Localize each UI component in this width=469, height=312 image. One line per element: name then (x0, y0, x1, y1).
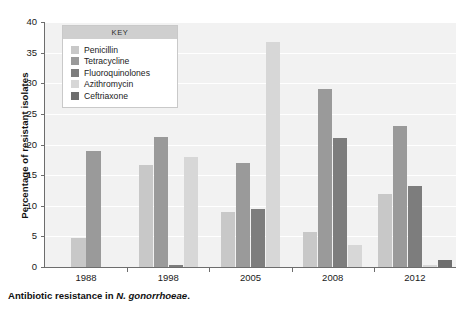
x-tick-label-2005: 2005 (240, 272, 261, 283)
legend-swatch-icon (71, 80, 79, 88)
y-tick-mark (41, 145, 45, 146)
bar-fluoroquinolones-1998 (169, 265, 184, 267)
bar-penicillin-2012 (378, 194, 393, 268)
x-axis-line (44, 267, 456, 268)
legend-label: Tetracycline (84, 56, 129, 66)
legend-items: PenicillinTetracyclineFluoroquinolonesAz… (63, 39, 177, 107)
y-tick-label: 15 (0, 169, 37, 180)
gridline (45, 22, 456, 23)
bar-tetracycline-2005 (236, 163, 251, 267)
gridline (45, 114, 456, 115)
legend-item-fluoroquinolones: Fluoroquinolones (71, 68, 177, 78)
legend-item-penicillin: Penicillin (71, 45, 177, 55)
legend-item-ceftriaxone: Ceftriaxone (71, 91, 177, 101)
y-tick-label: 30 (0, 77, 37, 88)
x-group-separator (374, 267, 375, 272)
legend-swatch-icon (71, 69, 79, 77)
bar-penicillin-2008 (303, 232, 318, 267)
bar-tetracycline-2008 (318, 89, 333, 267)
x-group-separator (292, 267, 293, 272)
x-group-separator (127, 267, 128, 272)
caption-species: N. gonorrhoeae (116, 290, 187, 301)
y-tick-mark (41, 236, 45, 237)
y-tick-label: 35 (0, 47, 37, 58)
legend-label: Penicillin (84, 45, 118, 55)
bar-fluoroquinolones-2005 (251, 209, 266, 267)
legend-label: Azithromycin (84, 79, 133, 89)
legend-item-tetracycline: Tetracycline (71, 56, 177, 66)
bar-penicillin-1998 (139, 165, 154, 267)
y-tick-mark (41, 53, 45, 54)
bar-fluoroquinolones-2012 (408, 186, 423, 267)
y-tick-label: 20 (0, 139, 37, 150)
x-tick-label-1998: 1998 (158, 272, 179, 283)
y-tick-mark (41, 83, 45, 84)
y-tick-mark (41, 206, 45, 207)
x-group-separator (209, 267, 210, 272)
y-tick-mark (41, 114, 45, 115)
y-tick-mark (41, 175, 45, 176)
caption-suffix: . (187, 290, 190, 301)
chart-figure: Percentage of resistant isolates 0510152… (0, 0, 469, 312)
y-tick-mark (41, 267, 45, 268)
bar-penicillin-1988 (71, 238, 86, 267)
legend-label: Ceftriaxone (84, 91, 128, 101)
y-tick-label: 40 (0, 16, 37, 27)
y-tick-mark (41, 22, 45, 23)
x-tick-label-2008: 2008 (322, 272, 343, 283)
bar-azithromycin-2012 (423, 265, 438, 267)
legend-swatch-icon (71, 46, 79, 54)
figure-caption: Antibiotic resistance in N. gonorrhoeae. (8, 290, 190, 301)
caption-prefix: Antibiotic resistance in (8, 290, 116, 301)
x-tick-label-1988: 1988 (76, 272, 97, 283)
legend-item-azithromycin: Azithromycin (71, 79, 177, 89)
y-tick-label: 0 (0, 261, 37, 272)
y-tick-label: 5 (0, 230, 37, 241)
x-tick-label-2012: 2012 (404, 272, 425, 283)
chart-legend: KEY PenicillinTetracyclineFluoroquinolon… (62, 25, 178, 108)
y-tick-label: 25 (0, 108, 37, 119)
bar-penicillin-2005 (221, 212, 236, 267)
legend-title: KEY (63, 26, 177, 39)
legend-label: Fluoroquinolones (84, 68, 150, 78)
bar-azithromycin-2008 (348, 245, 363, 267)
legend-swatch-icon (71, 57, 79, 65)
bar-azithromycin-1998 (184, 157, 199, 267)
bar-ceftriaxone-2012 (438, 260, 453, 267)
bar-tetracycline-2012 (393, 126, 408, 267)
y-tick-label: 10 (0, 200, 37, 211)
bar-tetracycline-1988 (86, 151, 101, 267)
bar-azithromycin-2005 (266, 42, 281, 267)
bar-tetracycline-1998 (154, 137, 169, 267)
legend-swatch-icon (71, 92, 79, 100)
bar-fluoroquinolones-2008 (333, 138, 348, 267)
